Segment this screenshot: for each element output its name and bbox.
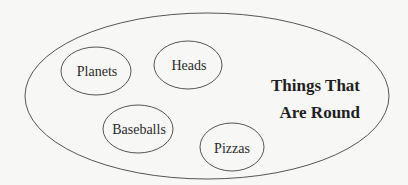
set-title-line1: Things That	[271, 72, 360, 99]
member-label-pizzas: Pizzas	[214, 141, 250, 157]
member-label-heads: Heads	[172, 58, 207, 74]
member-label-planets: Planets	[77, 64, 117, 80]
set-title-line2: Are Round	[271, 99, 360, 126]
set-title: Things That Are Round	[271, 72, 360, 126]
member-label-baseballs: Baseballs	[112, 122, 166, 138]
